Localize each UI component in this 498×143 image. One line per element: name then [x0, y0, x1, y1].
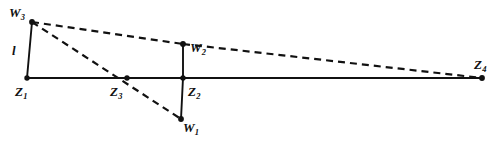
geometry-diagram: W3 Z1 Z3 W2 Z2 W1 Z4 l [0, 0, 498, 143]
segment-link-z1-w3 [27, 22, 32, 78]
label-length-l: l [12, 44, 16, 57]
point-z1 [24, 75, 29, 80]
point-w2 [180, 41, 186, 47]
label-z4: Z4 [474, 58, 486, 71]
point-z2 [180, 75, 185, 80]
label-z2: Z2 [188, 85, 200, 98]
diagram-canvas [0, 0, 498, 143]
segment-link-z2-w1 [181, 78, 183, 119]
segment-coupler-w3-w1 [32, 22, 181, 119]
point-w3 [29, 19, 35, 25]
segment-coupler-w3-w2 [32, 22, 183, 44]
segment-coupler-w2-z4 [183, 44, 482, 78]
label-z1: Z1 [15, 85, 27, 98]
point-z3 [124, 75, 129, 80]
label-z3: Z3 [110, 85, 122, 98]
label-w3: W3 [9, 6, 25, 19]
label-w2: W2 [190, 41, 206, 54]
label-w1: W1 [183, 121, 199, 134]
point-z4 [479, 75, 485, 81]
